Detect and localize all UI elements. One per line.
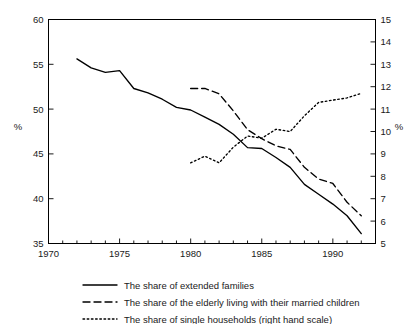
x-tick-label: 1985 [251,248,272,259]
legend-label-3: The share of single households (right ha… [124,314,332,324]
y-right-tick-label: 12 [381,81,392,92]
x-tick-label: 1980 [180,248,201,259]
y-right-tick-label: 6 [381,216,386,227]
chart-figure: 19701975198019851990 354045505560 567891… [0,0,417,324]
x-tick-label: 1990 [322,248,343,259]
y-left-tick-label: 40 [33,193,44,204]
y-right-tick-label: 14 [381,36,392,47]
y-left-tick-label: 55 [33,59,44,70]
y-right-tick-label: 7 [381,193,386,204]
y-axis-right-title: % [395,121,404,132]
y-right-tick-label: 11 [381,104,391,115]
y-left-tick-label: 45 [33,148,44,159]
legend-label-2: The share of the elderly living with the… [124,297,360,308]
y-right-tick-label: 13 [381,59,392,70]
y-right-tick-label: 10 [381,126,392,137]
y-right-tick-label: 8 [381,171,386,182]
line-chart: 19701975198019851990 354045505560 567891… [0,0,417,324]
chart-background [0,0,417,324]
x-tick-label: 1975 [109,248,130,259]
y-left-tick-label: 60 [33,14,44,25]
legend-label-1: The share of extended families [124,280,254,291]
y-right-tick-label: 15 [381,14,392,25]
x-tick-label: 1970 [38,248,59,259]
y-right-tick-label: 9 [381,148,386,159]
y-left-tick-label: 35 [33,238,44,249]
y-right-tick-label: 5 [381,238,386,249]
y-left-tick-label: 50 [33,104,44,115]
y-axis-left-title: % [14,121,23,132]
